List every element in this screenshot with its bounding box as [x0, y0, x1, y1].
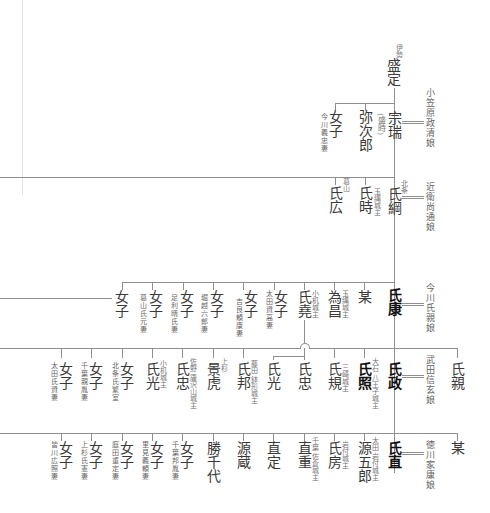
node-name: 氏光 — [145, 362, 159, 390]
gen3-drop — [152, 282, 153, 290]
gen4-drop — [364, 348, 365, 358]
node-note: 千葉 佐倉城主 — [311, 437, 318, 481]
gen5-drop — [122, 433, 123, 441]
node-note: 太田資高妻 — [265, 290, 272, 330]
gen3-offpage-line — [0, 298, 112, 299]
node-name: 盛定 — [386, 58, 400, 86]
gen2-drop-ujitoki — [365, 177, 366, 185]
marriage-line-ujitsuna — [402, 196, 424, 199]
spouse-ujinao: 徳川家康娘 — [425, 440, 435, 490]
node-name: 氏堯 — [297, 290, 311, 318]
node-name: 景虎 — [206, 362, 220, 390]
spouse-ujitsuna: 近衛尚通娘 — [425, 182, 435, 232]
node-note: 三崎城主 — [341, 364, 348, 392]
gen3-drop — [213, 282, 214, 290]
spouse-ujimasa: 武田信玄娘 — [425, 355, 435, 405]
node-note: (盛時) — [377, 113, 384, 135]
node-note: 皆川広照妻 — [50, 441, 57, 481]
node-note: 足利晴氏妻 — [170, 294, 177, 334]
node-note: 大石 八王子城主 — [371, 358, 378, 409]
node-name: 女子 — [58, 362, 72, 390]
gen5-drop — [243, 433, 244, 441]
gen5-drop — [334, 433, 335, 441]
node-name: 氏規 — [327, 362, 341, 390]
node-name: 弥次郎 — [358, 110, 372, 152]
node-name: 女子 — [148, 290, 162, 318]
gen4-drop — [243, 348, 244, 358]
marriage-line-ujimasa — [402, 375, 424, 378]
gen3-drop — [183, 282, 184, 290]
gen3-sibling-line — [122, 282, 395, 283]
gen3-drop — [304, 282, 305, 290]
marriage-line-ujinao — [402, 452, 424, 455]
gen5-drop — [182, 433, 183, 441]
marriage-line-ujiyasu — [402, 303, 424, 306]
node-note: 太田 岩付城主 — [371, 437, 378, 481]
ujitaka-descent-line — [304, 320, 305, 344]
node-name: 女子 — [114, 290, 128, 318]
gen4-drop — [304, 356, 305, 360]
line-crossing-hop — [300, 343, 310, 349]
node-name: 氏綱 — [387, 187, 401, 215]
node-name: 勝千代 — [206, 441, 220, 483]
node-name: 氏忠 — [175, 362, 189, 390]
gen5-drop — [152, 433, 153, 441]
trunk-line — [394, 88, 395, 473]
node-name: 女子 — [273, 290, 287, 318]
node-note: 千葉親胤妻 — [80, 362, 87, 402]
ujitaka-children-stem — [304, 348, 305, 356]
node-note: 伊勢 — [395, 44, 402, 58]
node-name: 氏時 — [358, 186, 372, 214]
node-name: 氏政 — [387, 362, 401, 390]
node-name: 氏忠 — [297, 362, 311, 390]
gen2-drop-ujihiro — [335, 177, 336, 185]
marriage-line-sozui — [402, 121, 424, 124]
page-margin-line — [22, 0, 23, 195]
gen5-drop — [273, 433, 274, 441]
gen4-drop — [152, 348, 153, 358]
node-note: 吉良頼康妻 — [235, 298, 242, 338]
node-name: 女子 — [119, 362, 133, 390]
node-name: 氏広 — [328, 186, 342, 214]
node-name: 女子 — [149, 441, 163, 469]
gen4-drop — [61, 348, 62, 358]
gen4-sibling-line — [0, 348, 457, 349]
gen4-drop — [457, 348, 458, 358]
gen4-drop — [182, 348, 183, 358]
node-note: 佐野 唐沢山城主 — [189, 358, 196, 409]
gen4-drop — [334, 348, 335, 358]
node-note: 上杉氏憲妻 — [80, 441, 87, 481]
node-name: 女子 — [88, 362, 102, 390]
gen3-drop — [364, 282, 365, 290]
gen3-drop — [122, 282, 123, 290]
node-name: 某 — [357, 290, 371, 304]
node-note: 小机城主 — [159, 360, 166, 388]
node-name: 宗瑞 — [387, 111, 401, 139]
node-name: 氏康 — [387, 288, 401, 316]
node-note: 太田氏資妻 — [50, 362, 57, 402]
node-name: 女子 — [179, 441, 193, 469]
gen3-drop — [243, 282, 244, 290]
node-note: 上杉 — [220, 358, 227, 372]
gen4-drop — [273, 356, 274, 360]
node-name: 直定 — [266, 441, 280, 469]
gen5-drop — [213, 433, 214, 441]
node-note: 葛山氏元妻 — [139, 294, 146, 334]
spouse-sozui: 小笠原政清娘 — [425, 88, 435, 148]
node-name: 女子 — [209, 290, 223, 318]
node-note: 岩付城主 — [341, 441, 348, 469]
node-note: 今川義忠妻 — [320, 113, 327, 153]
node-name: 女子 — [58, 441, 72, 469]
node-name: 女子 — [88, 441, 102, 469]
gen4-drop — [91, 348, 92, 358]
node-name: 源蔵 — [236, 441, 250, 469]
node-name: 源五郎 — [357, 441, 371, 483]
node-name: 氏房 — [327, 441, 341, 469]
gen5-drop — [91, 433, 92, 441]
node-name: 氏光 — [266, 362, 280, 390]
node-note: 千葉邦胤妻 — [171, 441, 178, 481]
node-name: 女子 — [243, 290, 257, 318]
node-name: 氏照 — [357, 362, 371, 390]
ujitaka-children-line — [273, 356, 304, 357]
node-note: 堀越六郎妻 — [200, 294, 207, 334]
